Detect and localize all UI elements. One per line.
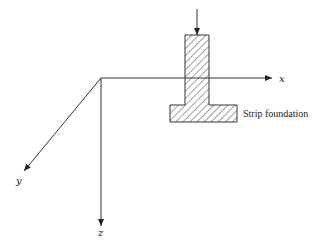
foundation-label: Strip foundation: [243, 108, 308, 119]
diagram-canvas: x y z Strip foundation: [0, 0, 329, 248]
z-axis-label: z: [97, 227, 104, 238]
diagram-svg: x y z Strip foundation: [0, 0, 329, 248]
y-axis: [24, 78, 101, 171]
x-axis-label: x: [279, 73, 285, 84]
y-axis-label: y: [15, 175, 22, 186]
